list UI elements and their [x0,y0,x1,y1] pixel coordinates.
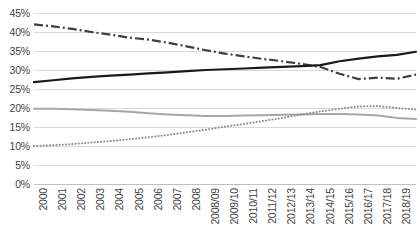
series-container [34,13,416,184]
y-axis-tick-label: 35% [10,46,30,57]
cropped-text-sliver: · [0,0,3,3]
y-axis-tick-label: 5% [15,160,30,171]
x-axis-tick-label: 2001 [57,188,68,211]
cropped-text-artifact: · [0,0,420,5]
x-axis-tick-label: 2008/09 [210,188,221,225]
x-axis-tick-label: 2009/10 [229,188,240,225]
x-axis-tick-label: 2015/16 [344,188,355,225]
x-axis-tick-label: 2013/14 [305,188,316,225]
y-axis-tick-label: 0% [15,179,30,190]
gridline [34,184,416,185]
x-axis: 2000200120022003200420052006200720082008… [34,188,416,245]
series-solid-gray [34,109,416,119]
y-axis-tick-label: 45% [10,8,30,19]
y-axis-tick-label: 40% [10,27,30,38]
x-axis-tick-label: 2010/11 [248,188,259,224]
x-axis-tick-label: 2016/17 [363,188,374,225]
x-axis-tick-label: 2003 [95,188,106,211]
x-axis-tick-label: 2017/18 [382,188,393,225]
y-axis-tick-label: 30% [10,65,30,76]
x-axis-tick-label: 2005 [134,188,145,211]
y-axis-tick-label: 15% [10,122,30,133]
x-axis-tick-label: 2007 [172,188,183,211]
x-axis-tick-label: 2011/12 [267,188,278,224]
x-axis-tick-label: 2014/15 [325,188,336,225]
x-axis-tick-label: 2012/13 [286,188,297,225]
y-axis: 0%5%10%15%20%25%30%35%40%45% [0,13,30,184]
x-axis-tick-label: 2006 [153,188,164,211]
series-dotted-gray [34,106,416,146]
series-dash-dot [34,24,416,79]
y-axis-tick-label: 20% [10,103,30,114]
series-solid-black [34,52,416,82]
x-axis-tick-label: 2018/19 [401,188,412,225]
plot-area [34,13,416,184]
line-chart: · 0%5%10%15%20%25%30%35%40%45% 200020012… [0,0,420,245]
x-axis-tick-label: 2002 [76,188,87,211]
x-axis-tick-label: 2000 [38,188,49,211]
y-axis-tick-label: 25% [10,84,30,95]
y-axis-tick-label: 10% [10,141,30,152]
x-axis-tick-label: 2008 [191,188,202,211]
x-axis-tick-label: 2004 [114,188,125,211]
